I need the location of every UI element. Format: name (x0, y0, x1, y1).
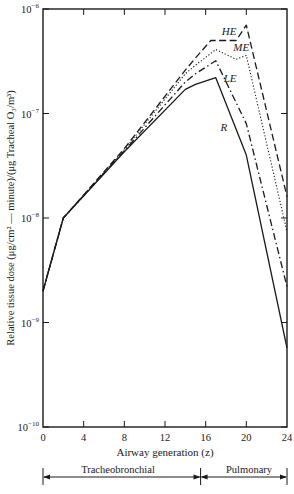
dose-chart: 10−1010−910−810−710−6 04812162024 HEMELE… (0, 0, 294, 494)
y-axis-label: Relative tissue dose (μg/cm² — minute)/(… (5, 90, 17, 346)
series-me-line (43, 50, 287, 292)
arrow-head-right (194, 475, 201, 480)
y-tick-label: 10−9 (21, 316, 39, 329)
series-le-label: LE (223, 72, 237, 84)
x-tick-label: 16 (200, 432, 211, 443)
region-label-tracheobronchial: Tracheobronchial (81, 464, 155, 475)
y-tick-label: 10−8 (21, 211, 39, 224)
y-axis-ticks: 10−1010−910−810−710−6 (18, 2, 287, 433)
series-r-label: R (220, 121, 228, 133)
y-tick-label: 10−10 (18, 420, 40, 433)
x-axis-ticks: 04812162024 (40, 9, 293, 443)
series-he-line (43, 25, 287, 291)
region-label-pulmonary: Pulmonary (226, 464, 273, 475)
x-tick-label: 4 (81, 432, 87, 443)
series-labels: HEMELER (220, 25, 250, 133)
data-series (43, 25, 287, 348)
y-tick-label: 10−6 (21, 2, 39, 15)
arrow-head-left (201, 475, 208, 480)
x-tick-label: 24 (282, 432, 293, 443)
x-tick-label: 20 (241, 432, 252, 443)
region-annotations: Tracheobronchial Pulmonary (43, 464, 287, 485)
x-tick-label: 8 (122, 432, 127, 443)
series-r-line (43, 78, 287, 348)
x-tick-label: 0 (40, 432, 45, 443)
x-axis-label: Airway generation (z) (116, 446, 213, 459)
x-tick-label: 12 (160, 432, 171, 443)
arrow-head-left (43, 475, 50, 480)
plot-border (43, 9, 287, 427)
series-me-label: ME (232, 41, 249, 53)
plot-frame (43, 9, 287, 427)
series-he-label: HE (221, 25, 237, 37)
y-tick-label: 10−7 (21, 107, 39, 120)
arrow-head-right (280, 475, 287, 480)
